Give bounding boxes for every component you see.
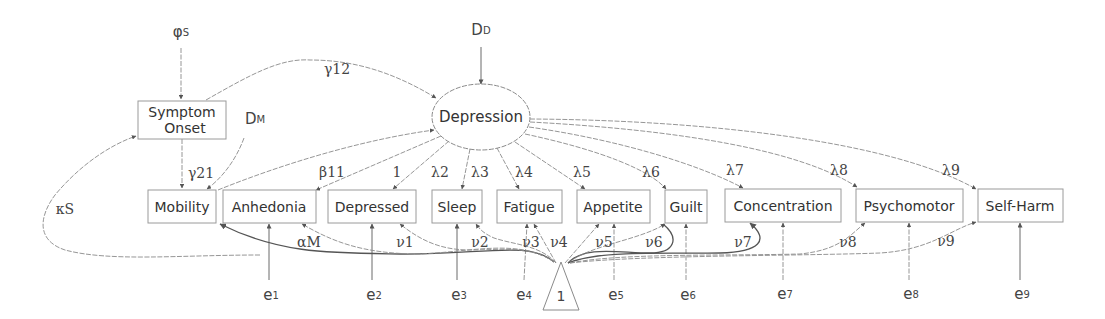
lambda3-label: λ3 bbox=[471, 164, 489, 180]
nu5-label: ν5 bbox=[595, 234, 612, 250]
nu4-label: ν4 bbox=[550, 234, 568, 250]
nu1-anhedonia-path bbox=[302, 224, 554, 262]
mobility-to-depression-path bbox=[218, 130, 434, 190]
lambda9-label: λ9 bbox=[942, 162, 960, 178]
gamma12-label: γ12 bbox=[324, 61, 350, 77]
symptom-onset-label-line2: Onset bbox=[164, 120, 206, 136]
kappa-s-label: κS bbox=[56, 201, 74, 217]
e1-label: e1 bbox=[263, 286, 279, 304]
nu1-label: ν1 bbox=[396, 234, 413, 250]
mobility-label: Mobility bbox=[155, 199, 210, 215]
lambda7-label: λ7 bbox=[726, 162, 744, 178]
sleep-label: Sleep bbox=[438, 199, 477, 215]
loading-guilt bbox=[525, 134, 666, 189]
constant-label: 1 bbox=[557, 288, 566, 304]
d-d-label: DD bbox=[471, 21, 491, 39]
loading-concentration bbox=[529, 127, 743, 188]
e4-label: e4 bbox=[516, 286, 532, 304]
fatigue-label: Fatigue bbox=[503, 199, 554, 215]
depressed-label: Depressed bbox=[335, 199, 409, 215]
nu3-label: ν3 bbox=[522, 234, 539, 250]
symptom-onset-label-line1: Symptom bbox=[148, 104, 215, 120]
concentration-label: Concentration bbox=[733, 198, 832, 214]
e6-label: e6 bbox=[680, 286, 696, 304]
loading-one-label: 1 bbox=[393, 164, 402, 180]
e3-label: e3 bbox=[451, 286, 467, 304]
phi-s-label: φS bbox=[173, 23, 189, 41]
nu6-label: ν6 bbox=[645, 234, 663, 250]
alpha-m-path bbox=[220, 224, 554, 262]
depression-label: Depression bbox=[439, 108, 523, 126]
alpha-m-label: αM bbox=[297, 234, 321, 250]
appetite-label: Appetite bbox=[583, 199, 642, 215]
lambda4-label: λ4 bbox=[515, 164, 533, 180]
d-m-label: DM bbox=[245, 110, 265, 128]
e7-label: e7 bbox=[777, 285, 793, 303]
nu2-label: ν2 bbox=[471, 234, 488, 250]
nu9-label: ν9 bbox=[937, 233, 954, 249]
e2-label: e2 bbox=[366, 286, 382, 304]
gamma21-label: γ21 bbox=[188, 165, 214, 181]
loading-sleep bbox=[462, 149, 470, 189]
loading-self-harm bbox=[530, 119, 976, 189]
nu7-label: ν7 bbox=[734, 234, 751, 250]
lambda8-label: λ8 bbox=[830, 162, 848, 178]
sem-diagram: Depression Symptom Onset Mobility Anhedo… bbox=[0, 0, 1105, 319]
dm-to-mobility-path bbox=[207, 138, 244, 189]
beta11-label: β11 bbox=[319, 164, 345, 180]
nu8-label: ν8 bbox=[839, 234, 856, 250]
e5-label: e5 bbox=[608, 286, 624, 304]
lambda5-label: λ5 bbox=[573, 164, 591, 180]
psychomotor-label: Psychomotor bbox=[864, 198, 955, 214]
anhedonia-label: Anhedonia bbox=[232, 199, 307, 215]
e9-label: e9 bbox=[1014, 285, 1030, 303]
e4-arrow bbox=[524, 224, 527, 280]
gamma12-path bbox=[206, 60, 436, 100]
lambda2-label: λ2 bbox=[431, 164, 449, 180]
self-harm-label: Self-Harm bbox=[986, 198, 1055, 214]
loading-anhedonia bbox=[316, 136, 441, 190]
lambda6-label: λ6 bbox=[642, 164, 660, 180]
guilt-label: Guilt bbox=[670, 199, 704, 215]
e8-label: e8 bbox=[903, 285, 919, 303]
